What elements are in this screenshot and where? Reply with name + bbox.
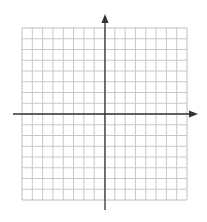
- coordinate-plane: [0, 0, 207, 222]
- y-axis-arrow-icon: [102, 14, 109, 23]
- x-axis-arrow-icon: [189, 111, 198, 118]
